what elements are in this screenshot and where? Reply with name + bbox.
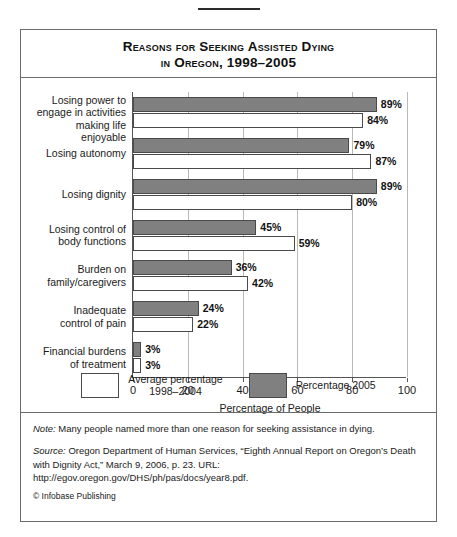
bar-white bbox=[133, 154, 371, 169]
legend-label: Percentage 2005 bbox=[296, 379, 376, 392]
category-label-line: Losing power to bbox=[29, 94, 126, 107]
category-label-line: Financial burdens bbox=[29, 345, 126, 358]
bar-gray bbox=[133, 138, 349, 153]
bar-value-label: 3% bbox=[145, 342, 160, 357]
bar-gray bbox=[133, 97, 377, 112]
title-line-2: in Oregon, 1998–2005 bbox=[161, 55, 296, 71]
bar-group: Losing control ofbody functions45%59% bbox=[133, 220, 406, 251]
category-label-line: Losing control of bbox=[29, 223, 126, 236]
category-label-line: body functions bbox=[29, 235, 126, 248]
category-label-line: family/caregivers bbox=[29, 276, 126, 289]
category-label-line: making life enjoyable bbox=[29, 119, 126, 144]
category-label: Losing power toengage in activitiesmakin… bbox=[29, 94, 133, 144]
bar-group: Losing dignity89%80% bbox=[133, 179, 406, 210]
figure-frame: Reasons for Seeking Assisted Dying in Or… bbox=[20, 29, 437, 522]
bar-gray bbox=[133, 260, 232, 275]
bar-value-label: 45% bbox=[260, 220, 281, 235]
source-text: Source: Oregon Department of Human Servi… bbox=[33, 444, 424, 485]
bar-value-label: 87% bbox=[375, 154, 396, 169]
average-swatch bbox=[81, 373, 119, 398]
category-label: Burden onfamily/caregivers bbox=[29, 263, 133, 288]
category-label: Losing control ofbody functions bbox=[29, 223, 133, 248]
category-label-line: Inadequate bbox=[29, 304, 126, 317]
bar-value-label: 80% bbox=[356, 195, 377, 210]
category-label-line: Losing autonomy bbox=[29, 147, 126, 160]
bar-gray bbox=[133, 342, 141, 357]
bar-group: Losing power toengage in activitiesmakin… bbox=[133, 97, 406, 128]
bar-value-label: 22% bbox=[197, 317, 218, 332]
chart-legend: Average percentage1998–2004Percentage 20… bbox=[21, 366, 436, 404]
bar-value-label: 42% bbox=[252, 276, 273, 291]
bar-gray bbox=[133, 220, 256, 235]
note-body: Many people named more than one reason f… bbox=[56, 423, 375, 434]
bar-value-label: 84% bbox=[367, 113, 388, 128]
source-label: Source: bbox=[33, 445, 66, 456]
category-label: Losing dignity bbox=[29, 188, 133, 201]
bar-white bbox=[133, 317, 193, 332]
bar-gray bbox=[133, 179, 377, 194]
bar-value-label: 89% bbox=[381, 97, 402, 112]
category-label-line: Losing dignity bbox=[29, 188, 126, 201]
bar-white bbox=[133, 236, 295, 251]
title-line-1: Reasons for Seeking Assisted Dying bbox=[123, 39, 335, 55]
bar-value-label: 36% bbox=[236, 260, 257, 275]
category-label: Losing autonomy bbox=[29, 147, 133, 160]
legend-item: Average percentage1998–2004 bbox=[81, 373, 222, 398]
bar-value-label: 24% bbox=[203, 301, 224, 316]
bar-gray bbox=[133, 301, 199, 316]
bar-white bbox=[133, 195, 352, 210]
bar-value-label: 79% bbox=[353, 138, 374, 153]
bar-white bbox=[133, 113, 363, 128]
legend-item: Percentage 2005 bbox=[249, 373, 376, 398]
figure-footer: Note: Many people named more than one re… bbox=[21, 412, 436, 521]
bar-white bbox=[133, 276, 248, 291]
top-rule bbox=[198, 8, 260, 10]
bar-group: Losing autonomy79%87% bbox=[133, 138, 406, 169]
legend-label-line2: 1998–2004 bbox=[128, 385, 222, 398]
legend-label: Average percentage1998–2004 bbox=[128, 373, 222, 398]
bar-group: Inadequatecontrol of pain24%22% bbox=[133, 301, 406, 332]
note-label: Note: bbox=[33, 423, 56, 434]
category-label-line: engage in activities bbox=[29, 106, 126, 119]
category-label-line: Burden on bbox=[29, 263, 126, 276]
copyright-text: © Infobase Publishing bbox=[33, 491, 424, 501]
source-body: Oregon Department of Human Services, “Ei… bbox=[33, 445, 416, 483]
category-label-line: control of pain bbox=[29, 317, 126, 330]
bar-value-label: 89% bbox=[381, 179, 402, 194]
note-text: Note: Many people named more than one re… bbox=[33, 422, 424, 435]
category-label: Inadequatecontrol of pain bbox=[29, 304, 133, 329]
gridline-100 bbox=[407, 92, 408, 377]
bar-group: Burden onfamily/caregivers36%42% bbox=[133, 260, 406, 291]
percentage-2005-swatch bbox=[249, 373, 287, 398]
plot-region: Losing power toengage in activitiesmakin… bbox=[132, 92, 406, 378]
figure-title: Reasons for Seeking Assisted Dying in Or… bbox=[21, 30, 436, 78]
bar-value-label: 59% bbox=[299, 236, 320, 251]
